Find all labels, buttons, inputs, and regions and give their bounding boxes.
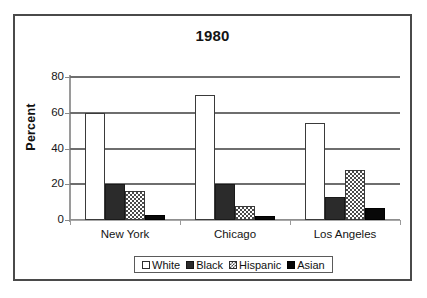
bar-group-new-york <box>85 77 165 220</box>
legend-swatch-black-icon <box>186 261 194 269</box>
bar-group-los-angeles <box>305 77 385 220</box>
bar-new-york-white <box>85 113 105 220</box>
y-tick-mark-80 <box>65 77 70 78</box>
category-tick-1 <box>180 220 181 225</box>
legend-entry-asian: Asian <box>287 259 325 271</box>
y-tick-label-60: 60 <box>24 107 64 119</box>
legend-swatch-hispanic-icon <box>229 261 237 269</box>
legend-label-black: Black <box>196 259 223 271</box>
bar-group-chicago <box>195 77 275 220</box>
y-tick-mark-40 <box>65 149 70 150</box>
bar-chicago-black <box>215 184 235 220</box>
chart-title: 1980 <box>13 27 412 44</box>
legend-swatch-asian-icon <box>287 261 295 269</box>
category-label-new-york: New York <box>70 228 180 240</box>
bar-chicago-hispanic <box>235 206 255 220</box>
y-tick-label-80: 80 <box>24 71 64 83</box>
category-axis-line <box>70 220 400 221</box>
chart-legend: WhiteBlackHispanicAsian <box>134 256 333 273</box>
bar-new-york-hispanic <box>125 191 145 220</box>
category-tick-edge-0 <box>70 220 71 225</box>
legend-label-asian: Asian <box>297 259 325 271</box>
y-tick-label-20: 20 <box>24 178 64 190</box>
bar-chicago-white <box>195 95 215 220</box>
category-tick-2 <box>290 220 291 225</box>
legend-entry-hispanic: Hispanic <box>229 259 281 271</box>
category-label-los-angeles: Los Angeles <box>290 228 400 240</box>
category-label-chicago: Chicago <box>180 228 290 240</box>
y-tick-label-0: 0 <box>24 214 64 226</box>
legend-label-hispanic: Hispanic <box>239 259 281 271</box>
bar-los-angeles-black <box>325 197 345 220</box>
legend-entry-black: Black <box>186 259 223 271</box>
plot-area <box>70 77 400 220</box>
bar-los-angeles-asian <box>365 208 385 221</box>
chart-figure: 1980 Percent 020406080 New YorkChicagoLo… <box>0 0 427 298</box>
bar-los-angeles-white <box>305 123 325 220</box>
legend-label-white: White <box>152 259 180 271</box>
y-axis-title: Percent <box>24 72 38 182</box>
y-tick-mark-60 <box>65 113 70 114</box>
bar-los-angeles-hispanic <box>345 170 365 220</box>
bar-new-york-black <box>105 184 125 220</box>
category-tick-edge-3 <box>400 220 401 225</box>
y-tick-label-40: 40 <box>24 143 64 155</box>
y-tick-mark-20 <box>65 184 70 185</box>
legend-entry-white: White <box>142 259 180 271</box>
legend-swatch-white-icon <box>142 261 150 269</box>
